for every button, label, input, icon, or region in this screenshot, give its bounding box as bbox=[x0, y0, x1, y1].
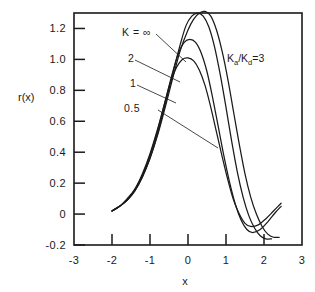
y-tick-label-6: 0 bbox=[59, 208, 66, 220]
x-tick-label-4: 1 bbox=[223, 254, 230, 266]
x-axis-ticks bbox=[112, 234, 264, 245]
curve-label-k-2: 2 bbox=[128, 52, 134, 64]
y-tick-label-2: 0.8 bbox=[50, 84, 67, 96]
curve-k-1 bbox=[112, 39, 281, 232]
leader-line-k-0.5 bbox=[158, 110, 218, 148]
chart-figure: 1.21.00.80.60.40.20-0.2 -3-2-10123 K = ∞… bbox=[0, 0, 315, 292]
curve-label-k-infinity: K = ∞ bbox=[122, 26, 151, 38]
x-tick-label-6: 3 bbox=[299, 254, 306, 266]
curve-label-k-0.5: 0.5 bbox=[124, 102, 140, 114]
curve-annotation-labels: K = ∞210.5 bbox=[122, 26, 151, 114]
y-tick-label-5: 0.2 bbox=[50, 177, 67, 189]
curve-k- bbox=[112, 11, 279, 237]
y-axis-ticks bbox=[74, 28, 85, 245]
y-axis-tick-labels: 1.21.00.80.60.40.20-0.2 bbox=[45, 22, 66, 251]
plot-area: 1.21.00.80.60.40.20-0.2 -3-2-10123 K = ∞… bbox=[0, 0, 315, 292]
y-tick-label-7: -0.2 bbox=[45, 239, 66, 251]
ratio-slash: /K bbox=[238, 52, 248, 64]
y-axis-title: r(x) bbox=[18, 91, 35, 103]
annotation-leader-lines bbox=[135, 34, 218, 148]
x-axis-tick-labels: -3-2-10123 bbox=[69, 254, 306, 266]
ratio-k-a: K bbox=[227, 52, 234, 64]
ratio-equals-value: =3 bbox=[252, 52, 264, 64]
curve-k-2 bbox=[112, 13, 272, 239]
y-tick-label-4: 0.4 bbox=[50, 146, 67, 158]
y-tick-label-3: 0.6 bbox=[50, 115, 67, 127]
curve-label-k-1: 1 bbox=[130, 77, 136, 89]
x-tick-label-3: 0 bbox=[185, 254, 192, 266]
y-tick-label-0: 1.2 bbox=[50, 22, 67, 34]
curve-k-0-5 bbox=[112, 58, 281, 227]
y-tick-label-1: 1.0 bbox=[50, 53, 67, 65]
x-tick-label-1: -2 bbox=[107, 254, 118, 266]
data-curves bbox=[112, 11, 281, 239]
x-tick-label-2: -1 bbox=[145, 254, 156, 266]
ratio-annotation: Ka/Kd=3 bbox=[227, 52, 264, 67]
x-tick-label-5: 2 bbox=[261, 254, 268, 266]
x-tick-label-0: -3 bbox=[69, 254, 80, 266]
x-axis-title: x bbox=[182, 275, 188, 287]
